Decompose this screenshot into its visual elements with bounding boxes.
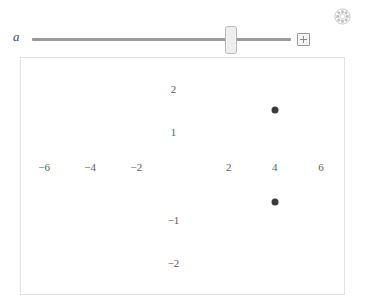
x-axis-tick-label: 2 xyxy=(226,162,232,173)
plus-icon[interactable] xyxy=(297,33,310,46)
x-axis-tick-label: 4 xyxy=(272,162,278,173)
parameter-slider[interactable] xyxy=(32,24,291,56)
gear-icon-glyph xyxy=(334,8,351,25)
slider-track[interactable] xyxy=(32,38,291,41)
slider-variable-label: a xyxy=(13,29,20,45)
x-axis-tick-label: 6 xyxy=(318,162,324,173)
y-axis-tick-label: −1 xyxy=(168,214,180,225)
x-axis-tick-label: −6 xyxy=(38,162,50,173)
graph-plot-area[interactable]: −6−4−224621−1−2 xyxy=(20,57,345,295)
plus-icon-vertical-bar xyxy=(303,36,305,43)
slider-thumb[interactable] xyxy=(225,26,237,54)
plot-data-point[interactable] xyxy=(271,199,278,206)
y-axis-tick-label: −2 xyxy=(168,258,180,269)
x-axis-tick-label: −2 xyxy=(130,162,142,173)
y-axis-tick-label: 1 xyxy=(171,127,177,138)
x-axis-tick-label: −4 xyxy=(84,162,96,173)
gear-icon[interactable] xyxy=(334,8,351,25)
plot-data-point[interactable] xyxy=(271,107,278,114)
y-axis-tick-label: 2 xyxy=(171,83,177,94)
parameter-slider-row: a xyxy=(0,24,366,56)
